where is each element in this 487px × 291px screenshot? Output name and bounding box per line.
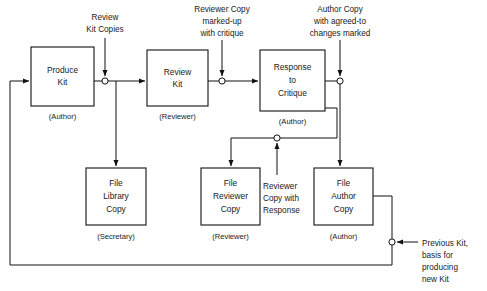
process-box-file-reviewer-copy-line-2: Copy	[221, 204, 241, 214]
annotation-previous-kit: Previous Kit, basis for producing new Ki…	[422, 239, 468, 284]
annotation-author-copy-agreed-to: Author Copy with agreed-to changes marke…	[310, 5, 371, 38]
process-box-produce-kit-line-0: Produce	[47, 65, 79, 75]
process-box-response-to-critique-line-2: Critique	[278, 88, 307, 98]
process-box-response-to-critique[interactable]: Response to Critique (Author)	[260, 50, 325, 126]
process-box-file-reviewer-copy-line-0: File	[224, 178, 238, 188]
annotation-reviewer-copy-with-response-line-2: Response	[263, 206, 300, 215]
process-box-response-to-critique-line-1: to	[289, 75, 296, 85]
flowchart-diagram: Produce Kit (Author) Review Kit (Reviewe…	[0, 0, 487, 291]
connector-file-author-copy-to-rail	[373, 196, 392, 265]
process-box-file-reviewer-copy[interactable]: File Reviewer Copy (Reviewer)	[201, 168, 260, 241]
annotation-review-kit-copies: Review Kit Copies	[86, 13, 123, 34]
process-box-file-library-copy-role: (Secretary)	[97, 232, 135, 241]
annotation-previous-kit-line-0: Previous Kit,	[422, 239, 468, 248]
process-box-produce-kit-line-1: Kit	[58, 77, 68, 87]
process-box-file-library-copy-line-1: Library	[103, 191, 129, 201]
process-box-review-kit-line-1: Kit	[173, 79, 183, 89]
annotation-reviewer-copy-marked-up-line-1: marked-up	[202, 17, 242, 26]
process-box-file-reviewer-copy-line-1: Reviewer	[213, 191, 248, 201]
process-box-file-reviewer-copy-role: (Reviewer)	[212, 232, 249, 241]
annotation-author-copy-agreed-to-line-2: changes marked	[310, 29, 371, 38]
process-box-review-kit-shape	[147, 50, 208, 106]
process-box-layer: Produce Kit (Author) Review Kit (Reviewe…	[31, 47, 373, 241]
process-box-response-to-critique-line-0: Response	[274, 62, 312, 72]
junction-review-kit-copies	[102, 78, 108, 84]
process-box-file-author-copy[interactable]: File Author Copy (Author)	[314, 168, 373, 241]
process-box-review-kit-line-0: Review	[164, 67, 192, 77]
process-box-review-kit-role: (Reviewer)	[159, 112, 196, 121]
annotation-reviewer-copy-with-response: Reviewer Copy with Response	[263, 182, 300, 215]
annotation-previous-kit-line-3: new Kit	[422, 275, 450, 284]
process-box-file-author-copy-line-1: Author	[331, 191, 356, 201]
annotation-author-copy-agreed-to-line-0: Author Copy	[317, 5, 363, 14]
annotation-review-kit-copies-line-0: Review	[92, 13, 119, 22]
process-box-file-library-copy-line-2: Copy	[106, 204, 126, 214]
annotation-reviewer-copy-with-response-line-0: Reviewer	[263, 182, 297, 191]
process-box-response-to-critique-role: (Author)	[279, 117, 307, 126]
connector-response-to-critique-output-bottom	[325, 108, 337, 138]
annotation-previous-kit-line-2: producing	[422, 263, 458, 272]
process-box-file-author-copy-role: (Author)	[330, 232, 358, 241]
flowchart-canvas: Produce Kit (Author) Review Kit (Reviewe…	[0, 0, 487, 291]
annotation-review-kit-copies-line-1: Kit Copies	[86, 25, 123, 34]
junction-reviewer-copy-critique	[219, 78, 225, 84]
annotation-reviewer-copy-marked-up: Reviewer Copy marked-up with critique	[194, 5, 250, 38]
process-box-produce-kit-role: (Author)	[49, 112, 77, 121]
process-box-file-author-copy-line-0: File	[337, 178, 351, 188]
annotation-previous-kit-line-1: basis for	[422, 251, 453, 260]
process-box-file-library-copy-line-0: File	[109, 178, 123, 188]
annotation-reviewer-copy-with-response-line-1: Copy with	[263, 194, 299, 203]
annotation-author-copy-agreed-to-line-1: with agreed-to	[313, 17, 366, 26]
annotation-reviewer-copy-marked-up-line-0: Reviewer Copy	[194, 5, 250, 14]
junction-author-copy-changes	[337, 78, 343, 84]
process-box-file-library-copy[interactable]: File Library Copy (Secretary)	[86, 168, 146, 241]
process-box-review-kit[interactable]: Review Kit (Reviewer)	[147, 50, 208, 121]
annotation-reviewer-copy-marked-up-line-2: with critique	[199, 29, 244, 38]
process-box-produce-kit[interactable]: Produce Kit (Author)	[31, 47, 94, 121]
junction-reviewer-copy-response	[274, 135, 280, 141]
process-box-file-author-copy-line-2: Copy	[334, 204, 354, 214]
connector-rail-to-file-reviewer-copy	[231, 138, 337, 166]
junction-previous-kit	[389, 239, 395, 245]
